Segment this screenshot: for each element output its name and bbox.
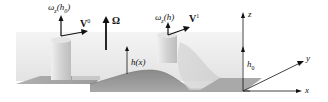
vortex-column-right [157, 32, 177, 63]
omega-rotation-label: Ω [112, 16, 120, 26]
hx-label: h(x) [131, 58, 146, 67]
omega-z-h0-label: ωz(h0) [48, 3, 70, 14]
fluid-layer-diagram: ωz(h0) V0 Ω ωz(h) V1 h(x) h0 z y x [0, 0, 328, 102]
v0-label: V0 [80, 18, 90, 29]
vortex-column-left [51, 37, 71, 80]
h0-label: h0 [247, 60, 255, 71]
z-axis-label: z [248, 10, 252, 19]
y-axis-label: y [306, 54, 310, 63]
v1-label: V1 [189, 13, 199, 24]
x-axis-label: x [305, 86, 309, 95]
omega-z-h-label: ωz(h) [155, 13, 174, 24]
